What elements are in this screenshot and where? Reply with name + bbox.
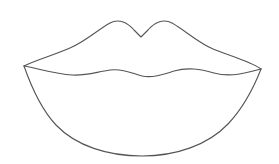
canvas-background [0, 0, 279, 164]
drawing-canvas [0, 0, 279, 164]
lips-illustration [0, 0, 279, 164]
